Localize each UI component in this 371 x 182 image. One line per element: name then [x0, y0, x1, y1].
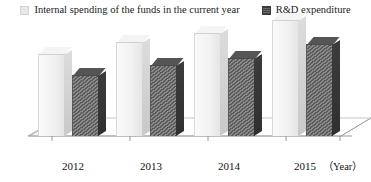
bar-front-face: [150, 65, 177, 136]
bar-rd-expenditure-2014[interactable]: [228, 59, 254, 136]
x-axis-label-2013: 2013: [128, 160, 174, 173]
chart-plot-area: [0, 18, 371, 158]
bar-side-face: [142, 38, 150, 136]
bar-internal-spending-2012[interactable]: [38, 55, 64, 136]
bar-front-face: [72, 75, 99, 136]
x-axis-label-2012: 2012: [50, 160, 96, 173]
bar-internal-spending-2015[interactable]: [272, 21, 298, 136]
bar-side-face: [64, 50, 72, 136]
legend-item-label: Internal spending of the funds in the cu…: [34, 4, 239, 16]
bar-rd-expenditure-2013[interactable]: [150, 66, 176, 136]
bar-side-face: [254, 54, 262, 136]
square-hatched-dark-swatch-icon: [262, 6, 271, 15]
bar-side-face: [98, 71, 106, 136]
bar-front-face: [306, 44, 333, 136]
bar-side-face: [298, 16, 306, 136]
bar-rd-expenditure-2015[interactable]: [306, 45, 332, 136]
bar-front-face: [194, 33, 222, 136]
legend-item-internal-spending: Internal spending of the funds in the cu…: [20, 4, 239, 16]
bar-side-face: [176, 61, 184, 136]
bar-side-face: [332, 40, 340, 136]
x-axis-unit-label: （Year）: [323, 160, 362, 173]
bar-group-2012: [38, 16, 116, 136]
bar-internal-spending-2014[interactable]: [194, 34, 220, 136]
bar-front-face: [228, 58, 255, 136]
bar-rd-expenditure-2012[interactable]: [72, 76, 98, 136]
bar-front-face: [38, 54, 66, 136]
bar-side-face: [220, 29, 228, 136]
bar-group-2015: [272, 6, 350, 136]
bar-front-face: [116, 42, 144, 136]
x-axis-label-2015: 2015: [282, 160, 328, 173]
bar-front-face: [272, 20, 300, 136]
square-light-swatch-icon: [20, 6, 29, 15]
bar-group-2013: [116, 16, 194, 136]
bar-group-2014: [194, 16, 272, 136]
x-axis-label-2014: 2014: [206, 160, 252, 173]
bar-internal-spending-2013[interactable]: [116, 43, 142, 136]
